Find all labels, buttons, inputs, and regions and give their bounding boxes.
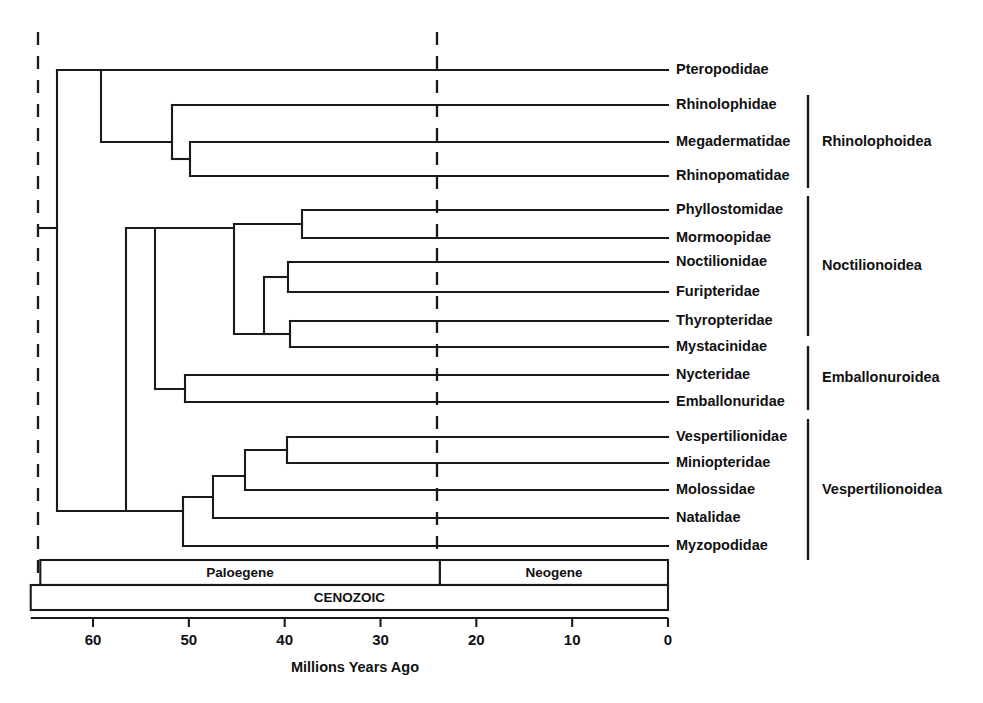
dashed-reference-lines: [38, 32, 437, 580]
clade-label-0: Rhinolophoidea: [822, 133, 932, 149]
axis-tick-label-10: 10: [564, 631, 581, 648]
tip-label-1: Rhinolophidae: [676, 96, 777, 112]
tip-label-14: Molossidae: [676, 481, 755, 497]
tip-label-4: Phyllostomidae: [676, 201, 783, 217]
clade-label-3: Vespertilionoidea: [822, 481, 943, 497]
tip-label-15: Natalidae: [676, 509, 740, 525]
axis-tick-label-30: 30: [372, 631, 389, 648]
tip-label-12: Vespertilionidae: [676, 428, 787, 444]
clade-label-2: Emballonuroidea: [822, 369, 941, 385]
tip-label-9: Mystacinidae: [676, 338, 767, 354]
tip-label-10: Nycteridae: [676, 366, 750, 382]
tip-label-6: Noctilionidae: [676, 253, 767, 269]
epoch-label-1: Neogene: [525, 565, 583, 580]
tip-label-11: Emballonuridae: [676, 393, 785, 409]
tip-label-3: Rhinopomatidae: [676, 167, 790, 183]
geologic-timescale: PaloegeneNeogeneCENOZOIC: [31, 560, 668, 610]
tip-label-8: Thyropteridae: [676, 312, 773, 328]
axis-title: Millions Years Ago: [291, 659, 419, 675]
tip-label-0: Pteropodidae: [676, 61, 769, 77]
tip-labels: PteropodidaeRhinolophidaeMegadermatidaeR…: [676, 61, 790, 553]
tree-branches: [38, 70, 668, 546]
axis-tick-label-50: 50: [181, 631, 198, 648]
tip-label-2: Megadermatidae: [676, 133, 790, 149]
epoch-label-0: Paloegene: [206, 565, 274, 580]
tip-label-16: Myzopodidae: [676, 537, 768, 553]
clade-label-1: Noctilionoidea: [822, 257, 923, 273]
time-axis: 6050403020100Millions Years Ago: [31, 618, 672, 675]
cladogram-figure: PteropodidaeRhinolophidaeMegadermatidaeR…: [0, 0, 983, 703]
tip-label-5: Mormoopidae: [676, 229, 771, 245]
axis-tick-label-20: 20: [468, 631, 485, 648]
tip-label-7: Furipteridae: [676, 283, 760, 299]
axis-tick-label-40: 40: [276, 631, 293, 648]
axis-tick-label-60: 60: [85, 631, 102, 648]
era-label: CENOZOIC: [314, 590, 386, 605]
tip-label-13: Miniopteridae: [676, 454, 770, 470]
axis-tick-label-0: 0: [664, 631, 672, 648]
clade-labels: RhinolophoideaNoctilionoideaEmballonuroi…: [822, 133, 943, 497]
tree-canvas: PteropodidaeRhinolophidaeMegadermatidaeR…: [0, 0, 983, 703]
